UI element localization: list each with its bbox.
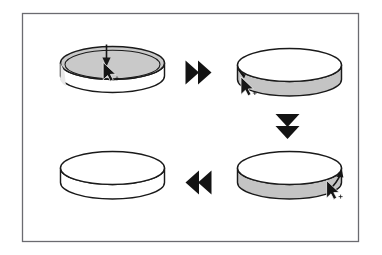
disc-side-selected[interactable] <box>238 49 342 97</box>
disc-rotated-selected[interactable] <box>238 152 344 200</box>
disc2-top-face <box>238 49 342 82</box>
diagram-canvas: Four-step cylinder manipulation sequence… <box>0 0 382 255</box>
figure-root: Four-step cylinder manipulation sequence… <box>0 0 382 255</box>
disc-deselected[interactable] <box>61 152 165 200</box>
figure-border <box>23 14 359 242</box>
disc3-top-face <box>238 152 342 185</box>
disc4-top-face <box>61 152 165 185</box>
disc-top-selected[interactable] <box>60 45 165 93</box>
